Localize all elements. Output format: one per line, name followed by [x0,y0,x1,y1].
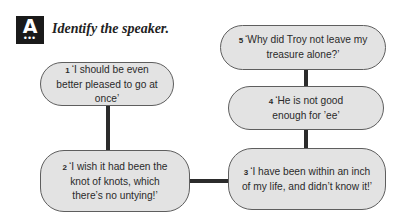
bubble-quote: ‘I should be even better pleased to go a… [56,64,157,104]
bubble-quote: ‘He is not good enough for ’ee’ [272,95,343,121]
bubble-number: 1 [65,66,69,75]
bubble-number: 3 [244,168,248,177]
bubble-number: 4 [269,97,273,106]
exercise-title: Identify the speaker. [52,21,169,37]
speech-bubble-2: 2‘I wish it had been the knot of knots, … [40,150,190,212]
section-badge-icon: A ••• [16,16,44,44]
speech-bubble-3: 3‘I have been within an inch of my life,… [228,148,386,210]
connector-1-2 [106,104,110,152]
bubble-number: 5 [239,36,243,45]
bubble-number: 2 [63,163,67,172]
bubble-quote: ‘Why did Troy not leave my treasure alon… [245,34,367,60]
connector-2-3 [189,179,230,183]
bubble-quote: ‘I wish it had been the knot of knots, w… [69,161,168,201]
bubble-quote: ‘I have been within an inch of my life, … [242,166,372,192]
connector-3-4 [304,129,308,150]
speech-bubble-4: 4‘He is not good enough for ’ee’ [228,86,384,130]
badge-dots: ••• [16,35,44,42]
connector-4-5 [304,69,308,87]
speech-bubble-1: 1‘I should be even better pleased to go … [40,62,174,106]
speech-bubble-5: 5‘Why did Troy not leave my treasure alo… [220,25,386,70]
